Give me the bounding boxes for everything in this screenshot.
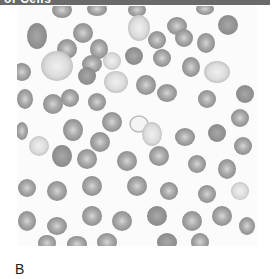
panel-label: B — [15, 261, 24, 277]
header-bar: of Cells — [0, 0, 270, 5]
blood-smear-image — [17, 6, 258, 246]
header-title: of Cells — [4, 0, 51, 5]
red-blood-cells-illustration — [17, 6, 258, 246]
